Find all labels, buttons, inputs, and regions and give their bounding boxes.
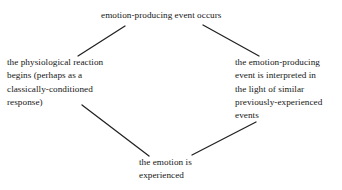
connector-top-to-left (78, 26, 125, 56)
diagram-canvas: emotion-producing event occurs the physi… (0, 0, 342, 190)
node-event-interpretation: the emotion-producing event is interpret… (235, 56, 341, 122)
node-emotion-producing-event: emotion-producing event occurs (101, 9, 251, 22)
connector-top-to-right (203, 25, 259, 56)
node-physiological-reaction: the physiological reaction begins (perha… (7, 56, 129, 109)
connector-left-to-bottom (82, 105, 149, 156)
node-emotion-experienced: the emotion is experienced (139, 156, 249, 183)
connector-right-to-bottom (192, 122, 256, 155)
